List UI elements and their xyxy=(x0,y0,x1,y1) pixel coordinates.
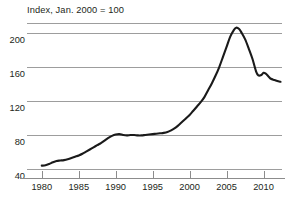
gridline xyxy=(27,169,282,170)
x-tick xyxy=(79,171,80,178)
x-tick-label: 1990 xyxy=(105,182,126,193)
x-tick-label: 1985 xyxy=(68,182,89,193)
y-axis: 2001601208040 xyxy=(0,23,25,178)
chart-container: Index, Jan. 2000 = 100 2001601208040 198… xyxy=(0,0,301,213)
plot-area xyxy=(27,23,282,178)
x-tick xyxy=(227,171,228,178)
y-tick-label: 120 xyxy=(9,103,25,114)
x-tick-label: 2010 xyxy=(253,182,274,193)
chart-title: Index, Jan. 2000 = 100 xyxy=(27,5,124,16)
x-tick xyxy=(42,171,43,178)
x-tick xyxy=(190,171,191,178)
x-tick xyxy=(153,171,154,178)
y-tick-label: 200 xyxy=(9,35,25,46)
x-tick-label: 2000 xyxy=(179,182,200,193)
x-tick xyxy=(116,171,117,178)
gridline xyxy=(27,135,282,136)
x-tick-label: 2005 xyxy=(216,182,237,193)
gridline xyxy=(27,67,282,68)
gridline-top xyxy=(27,23,282,24)
x-tick xyxy=(264,171,265,178)
gridline xyxy=(27,101,282,102)
x-tick-label: 1995 xyxy=(142,182,163,193)
y-tick-label: 40 xyxy=(15,171,25,182)
gridline xyxy=(27,33,282,34)
y-tick-label: 160 xyxy=(9,69,25,80)
x-tick-label: 1980 xyxy=(31,182,52,193)
x-axis-line xyxy=(20,178,285,179)
y-tick-label: 80 xyxy=(15,137,25,148)
